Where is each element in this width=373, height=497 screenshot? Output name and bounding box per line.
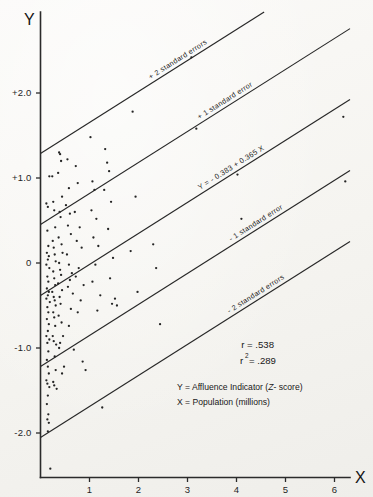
data-point [77,311,79,313]
data-point [91,281,93,283]
data-point [54,299,56,301]
data-point [112,257,114,259]
data-point [52,381,54,383]
plot-canvas: -2.0-1.00+1.0+2.0123456 + 2 standard err… [0,0,373,497]
data-point [58,347,60,349]
data-point [57,172,59,174]
data-point [54,355,56,357]
data-point [57,236,59,238]
data-point [110,201,112,203]
data-point [61,289,63,291]
data-point [48,323,50,325]
band-labels-group: + 2 standard errors+ 1 standard errorY =… [147,37,286,315]
x-axis-tick-label: 2 [136,484,141,495]
minus-one-standard-error-label: - 1 standard error [227,202,284,243]
data-point [48,338,50,340]
data-point [53,296,55,298]
data-point [134,196,136,198]
data-point [47,330,49,332]
data-point [103,189,105,191]
data-point [130,250,132,252]
data-point [79,226,81,228]
data-point [61,196,63,198]
data-point [63,366,65,368]
data-point [48,422,50,424]
data-point [58,296,60,298]
variable-definitions-block: Y = Affluence Indicator (Z- score) X = P… [177,382,303,407]
data-point [101,406,103,408]
regression-equation-label: Y = - 0.383 + 0.365 X [196,143,265,191]
data-point [48,267,50,269]
data-point [62,335,64,337]
data-point [80,299,82,301]
data-point [61,372,63,374]
data-point [53,209,55,211]
plus-two-standard-errors-label: + 2 standard errors [147,37,209,81]
data-point [97,245,99,247]
data-point [46,383,48,385]
data-point [90,209,92,211]
data-point [60,274,62,276]
data-point [46,418,48,420]
data-point [75,275,77,277]
data-point [155,267,157,269]
data-point [136,291,138,293]
data-point [159,323,161,325]
data-point [55,343,57,345]
data-point [344,180,346,182]
data-point [67,224,69,226]
regression-line-group [41,12,351,438]
data-point [68,325,70,327]
data-point [53,277,55,279]
data-point [152,243,154,245]
data-point [47,281,49,283]
data-point [53,247,55,249]
data-point [116,304,118,306]
data-point [53,340,55,342]
axis-tick-labels-group: -2.0-1.00+1.0+2.0123456 [12,87,337,494]
data-point [49,301,51,303]
data-point [107,228,109,230]
data-point [47,258,49,260]
data-point [54,325,56,327]
data-point [57,282,59,284]
data-point [131,111,133,113]
data-point [47,206,49,208]
data-point [111,303,113,305]
data-point [195,128,197,130]
data-point [48,372,50,374]
data-point [45,264,47,266]
data-point [54,284,56,286]
data-point [47,350,49,352]
y-axis-tick-label: -2.0 [14,427,31,438]
data-point [236,173,238,175]
data-point [75,165,77,167]
data-point [72,292,74,294]
data-point [46,318,48,320]
x-axis-tick-label: 6 [332,484,337,495]
data-point [45,335,47,337]
y-axis-tick-label: -1.0 [14,342,31,353]
data-point [45,202,47,204]
data-point [65,204,67,206]
x-definition-line: X = Population (millions) [177,397,270,407]
data-point [54,253,56,255]
data-point [46,306,48,308]
data-point [68,264,70,266]
data-point [55,304,57,306]
data-point [46,230,48,232]
data-point [60,321,62,323]
data-point [51,175,53,177]
data-point [95,218,97,220]
data-point [46,403,48,405]
scatter-plot-figure: -2.0-1.00+1.0+2.0123456 + 2 standard err… [0,0,373,497]
data-point [52,335,54,337]
y-definition-prefix: Y = Affluence Indicator ( [177,382,268,392]
data-point [52,270,54,272]
data-point [47,430,49,432]
data-point [91,180,93,182]
data-point [45,298,47,300]
data-point [81,247,83,249]
data-point [48,386,50,388]
data-point [46,287,48,289]
